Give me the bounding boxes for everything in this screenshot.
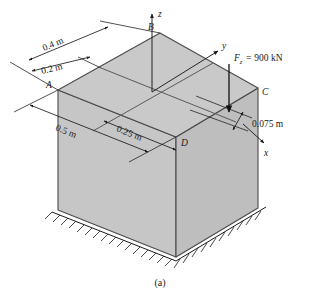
corner-label-a: A	[45, 80, 52, 90]
figure-container: z y x Fz =900 kN A B C D	[0, 0, 320, 300]
axis-label-z: z	[157, 9, 162, 19]
axis-label-y: y	[221, 41, 227, 51]
force-label-fz: Fz	[233, 53, 243, 65]
force-equals: =	[246, 53, 251, 63]
force-magnitude: 900 kN	[254, 53, 282, 63]
figure-caption: (a)	[154, 277, 165, 289]
dim-label-0p075: 0.075 m	[252, 119, 284, 129]
corner-label-c: C	[262, 87, 269, 97]
force-value-text: =900 kN	[246, 53, 283, 63]
ext-line-0p5-start	[14, 90, 58, 112]
corner-label-d: D	[180, 138, 188, 148]
dim-label-0p2: 0.2 m	[40, 61, 64, 76]
force-subscript: z	[239, 58, 243, 65]
block-solid	[58, 33, 258, 257]
axis-label-x: x	[263, 148, 269, 158]
block-diagram-svg: z y x Fz =900 kN A B C D	[0, 0, 320, 300]
